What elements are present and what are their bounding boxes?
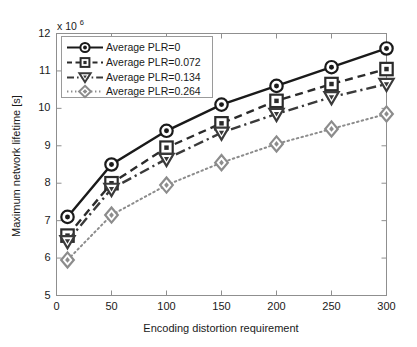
x-tick-label: 300 (367, 300, 407, 312)
data-point-marker (270, 80, 282, 92)
legend-swatch-series-0 (66, 40, 104, 55)
data-point-marker (380, 42, 392, 54)
y-tick-label: 7 (21, 214, 51, 226)
legend-item: Average PLR=0.134 (62, 70, 212, 85)
y-tick-label: 6 (21, 251, 51, 263)
legend-label-series-3: Average PLR=0.264 (106, 84, 201, 99)
y-tick-label: 12 (21, 27, 51, 39)
data-point-marker (214, 128, 228, 140)
data-point-marker (215, 98, 227, 110)
data-point-marker (380, 63, 392, 75)
legend-swatch-series-2 (66, 70, 104, 85)
data-point-marker (215, 155, 228, 170)
y-axis-title: Maximum network lifetime [s] (10, 66, 22, 266)
chart-figure: x 10 6 56789101112 050100150200250300 Ma… (0, 0, 417, 347)
y-tick-label: 11 (21, 64, 51, 76)
legend-swatch-series-3 (66, 84, 104, 99)
data-point-marker (270, 136, 283, 151)
chart-legend: Average PLR=0 Average PLR=0.072 Average … (61, 36, 213, 98)
data-point-marker (160, 178, 173, 193)
data-point-marker (325, 61, 337, 73)
x-tick-label: 0 (37, 300, 77, 312)
data-point-marker (160, 141, 172, 153)
data-point-marker (105, 158, 117, 170)
legend-label-series-0: Average PLR=0 (106, 40, 180, 55)
data-point-marker (61, 211, 73, 223)
data-point-marker (159, 154, 173, 166)
legend-label-series-2: Average PLR=0.134 (106, 70, 201, 85)
data-point-marker (270, 95, 282, 107)
y-axis-exponent: x 10 6 (57, 18, 84, 32)
x-tick-label: 150 (202, 300, 242, 312)
legend-item: Average PLR=0.072 (62, 55, 212, 70)
y-tick-label: 10 (21, 101, 51, 113)
x-tick-label: 250 (312, 300, 352, 312)
x-tick-label: 200 (257, 300, 297, 312)
data-point-marker (325, 78, 337, 90)
y-tick-label: 8 (21, 176, 51, 188)
legend-item: Average PLR=0 (62, 40, 212, 55)
legend-label-series-1: Average PLR=0.072 (106, 55, 201, 70)
x-tick-label: 100 (147, 300, 187, 312)
x-axis-title: Encoding distortion requirement (56, 322, 386, 334)
legend-swatch-series-1 (66, 55, 104, 70)
x-tick-label: 50 (92, 300, 132, 312)
data-point-marker (325, 121, 338, 136)
data-point-marker (324, 92, 338, 104)
y-tick-label: 9 (21, 139, 51, 151)
legend-item: Average PLR=0.264 (62, 84, 212, 99)
data-point-marker (105, 207, 118, 222)
data-point-marker (160, 125, 172, 137)
